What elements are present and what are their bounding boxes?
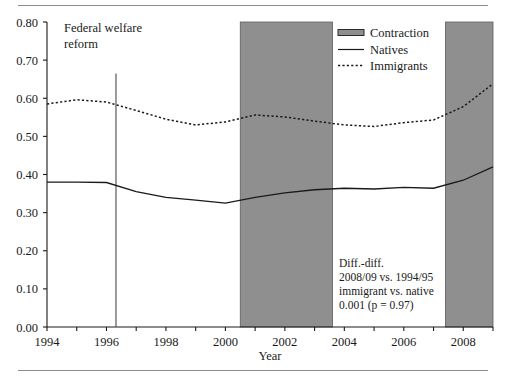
diffdiff-line-3: immigrant vs. native [339,285,434,298]
diffdiff-line-2: 2008/09 vs. 1994/95 [339,271,433,283]
y-axis-tick-label: 0.50 [16,130,38,144]
diffdiff-line-4: 0.001 (p = 0.97) [339,299,414,312]
y-axis-tick-label: 0.00 [16,321,38,335]
legend-label-contraction: Contraction [370,26,430,40]
x-axis-tick-label: 2000 [213,335,238,349]
welfare-annotation-line-1: Federal welfare [64,21,143,35]
x-axis-tick-label: 1994 [35,335,61,349]
y-axis-tick-label: 0.20 [16,244,38,258]
welfare-annotation-line-2: reform [64,37,98,51]
x-axis-tick-label: 2008 [451,335,476,349]
y-axis-tick-label: 0.80 [16,16,38,30]
y-axis-tick-label: 0.70 [16,54,38,68]
diffdiff-line-1: Diff.-diff. [339,257,384,269]
annotation-diff-in-diff: Diff.-diff. 2008/09 vs. 1994/95 immigran… [339,257,434,312]
figure-container: 0.000.100.200.300.400.500.600.700.80 199… [0,0,506,378]
y-axis-tick-label: 0.60 [16,92,38,106]
x-axis-tick-label: 2002 [272,335,297,349]
x-axis-ticks [47,327,493,331]
legend-label-immigrants: Immigrants [370,59,428,73]
x-axis-tick-label: 2006 [391,335,416,349]
x-axis-tick-label: 2004 [332,335,358,349]
legend-label-natives: Natives [370,43,408,57]
y-axis-tick-label: 0.10 [16,282,38,296]
x-axis-title: Year [258,349,282,363]
x-axis-tick-label: 1998 [153,335,178,349]
contraction-band [240,22,332,327]
y-axis-tick-label: 0.40 [16,168,38,182]
y-axis-tick-labels: 0.000.100.200.300.400.500.600.700.80 [16,16,38,335]
contraction-band [445,22,493,327]
x-axis-tick-labels: 19941996199820002002200420062008 [35,335,476,349]
chart-svg: 0.000.100.200.300.400.500.600.700.80 199… [0,0,506,378]
legend-swatch-contraction-icon [338,30,364,36]
x-axis-tick-label: 1996 [94,335,119,349]
y-axis-ticks [43,22,47,327]
y-axis-tick-label: 0.30 [16,206,38,220]
legend: Contraction Natives Immigrants [338,26,430,73]
annotation-federal-welfare-reform: Federal welfare reform [64,21,143,51]
